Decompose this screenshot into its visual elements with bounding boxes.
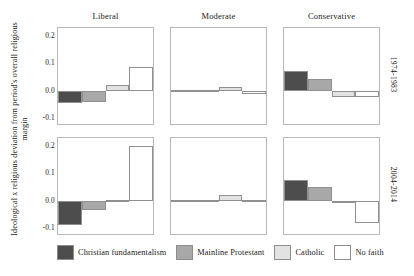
bar [129, 67, 153, 91]
bar-group [171, 138, 266, 234]
bar [332, 201, 356, 203]
panel-conservative-1974-1983 [283, 27, 380, 125]
chart-figure: Ideological x religious deviation from p… [0, 0, 414, 276]
bar-group [284, 28, 379, 124]
facet-col-header-conservative: Conservative [283, 11, 380, 21]
facet-row-header-2004-2014: 2004-2014 [389, 155, 398, 215]
bar [195, 90, 219, 92]
bar-group [171, 28, 266, 124]
bar [106, 85, 130, 91]
bar [129, 146, 153, 200]
bar [242, 200, 266, 202]
facet-row-header-1974-1983: 1974-1983 [389, 45, 398, 105]
bar [195, 200, 219, 202]
bar [171, 200, 195, 202]
bar [355, 91, 379, 97]
legend-swatch-icon [274, 245, 291, 260]
panel-conservative-2004-2014 [283, 137, 380, 235]
legend-item: No faith [334, 245, 383, 260]
bar [284, 180, 308, 201]
bar [82, 91, 106, 102]
legend-swatch-icon [57, 245, 74, 260]
chart-legend: Christian fundamentalismMainline Protest… [57, 242, 405, 262]
legend-label: Christian fundamentalism [78, 248, 166, 257]
bar [355, 201, 379, 223]
facet-grid: LiberalModerateConservative1974-19832004… [57, 27, 380, 235]
panel-moderate-1974-1983 [170, 27, 267, 125]
legend-item: Catholic [274, 245, 324, 260]
y-axis-ticks-row-1: 0.20.10.0-0.1 [27, 137, 55, 235]
legend-item: Mainline Protestant [176, 245, 264, 260]
bar [58, 201, 82, 225]
bar-group [58, 138, 153, 234]
y-tick-label: 0.1 [29, 168, 55, 177]
legend-swatch-icon [176, 245, 193, 260]
bar [171, 90, 195, 92]
bar [308, 79, 332, 91]
facet-col-header-liberal: Liberal [57, 11, 154, 21]
y-tick-label: 0.0 [29, 195, 55, 204]
bar [308, 187, 332, 201]
panel-liberal-1974-1983 [57, 27, 154, 125]
y-tick-label: 0.1 [29, 58, 55, 67]
bar-group [58, 28, 153, 124]
legend-label: Catholic [295, 248, 324, 257]
y-tick-label: 0.0 [29, 85, 55, 94]
y-tick-label: 0.2 [29, 141, 55, 150]
y-tick-label: -0.1 [29, 112, 55, 121]
y-tick-label: -0.1 [29, 222, 55, 231]
legend-label: No faith [355, 248, 383, 257]
bar [242, 91, 266, 94]
facet-col-header-moderate: Moderate [170, 11, 267, 21]
legend-label: Mainline Protestant [197, 248, 264, 257]
panel-liberal-2004-2014 [57, 137, 154, 235]
legend-item: Christian fundamentalism [57, 245, 166, 260]
bar [106, 200, 130, 202]
legend-swatch-icon [334, 245, 351, 260]
bar [219, 195, 243, 201]
bar-group [284, 138, 379, 234]
bar [332, 91, 356, 97]
bar [58, 91, 82, 104]
bar [82, 201, 106, 211]
bar [284, 71, 308, 90]
panel-moderate-2004-2014 [170, 137, 267, 235]
y-axis-ticks-row-0: 0.20.10.0-0.1 [27, 27, 55, 125]
bar [219, 87, 243, 90]
y-tick-label: 0.2 [29, 31, 55, 40]
